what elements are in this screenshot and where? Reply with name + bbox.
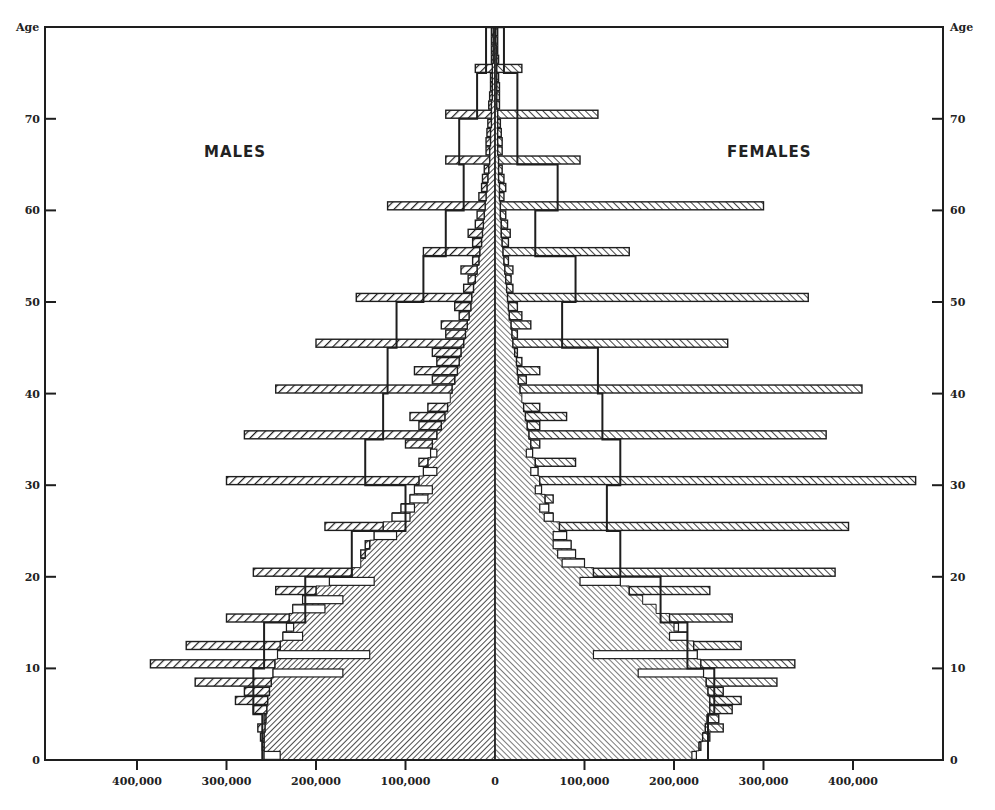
x-tick-label: 300,000: [202, 775, 252, 788]
age-bar-deficit: [535, 486, 541, 494]
age-bar-excess: [501, 229, 510, 237]
age-bar-deficit: [593, 651, 697, 659]
age-bar-excess: [475, 220, 483, 228]
y-tick-label: 70: [950, 113, 966, 126]
age-bar-deficit: [401, 504, 414, 512]
age-bar-excess: [428, 403, 448, 411]
age-bar-excess: [517, 367, 539, 375]
age-bar-excess: [535, 458, 575, 466]
y-tick-label: 10: [25, 662, 41, 675]
age-bar-deficit: [692, 751, 696, 759]
age-bar-excess: [524, 403, 540, 411]
age-bar-excess: [419, 458, 428, 466]
age-bar-excess: [361, 550, 365, 558]
age-bar-excess: [515, 348, 518, 356]
age-bar-excess: [531, 440, 540, 448]
age-bar-excess: [432, 376, 454, 384]
age-bar-excess: [496, 28, 498, 36]
y-tick-label: 20: [25, 571, 41, 584]
age-bar-excess: [500, 202, 763, 210]
males-label: MALES: [204, 143, 266, 161]
age-bar-deficit: [553, 532, 566, 540]
y-tick-label: 60: [950, 204, 966, 217]
age-bar-excess: [410, 413, 445, 421]
age-bar-deficit: [562, 559, 584, 567]
age-bar-excess: [505, 266, 513, 274]
age-bar-excess: [490, 92, 493, 100]
age-bar-deficit: [580, 577, 620, 585]
age-bar-deficit: [303, 596, 343, 604]
age-bar-deficit: [414, 486, 432, 494]
age-bar-excess: [365, 541, 369, 549]
age-bar-excess: [446, 330, 466, 338]
age-bar-excess: [502, 238, 508, 246]
population-pyramid-chart: 001010202030304040505060607070 400,00030…: [0, 0, 995, 810]
age-bar-excess: [500, 211, 505, 219]
age-bar-excess: [459, 312, 469, 320]
age-bar-deficit: [286, 623, 293, 631]
age-bar-excess: [482, 174, 487, 182]
age-bar-deficit: [273, 669, 343, 677]
x-tick-label: 400,000: [112, 775, 162, 788]
age-bar-excess: [504, 257, 508, 265]
x-tick-label: 100,000: [560, 775, 610, 788]
age-bar-deficit: [670, 632, 688, 640]
y-tick-label: 0: [32, 754, 40, 767]
age-bar-excess: [484, 165, 488, 173]
age-bar-excess: [699, 742, 701, 750]
age-bar-excess: [501, 220, 507, 228]
age-bar-excess: [235, 696, 267, 704]
age-bar-deficit: [423, 467, 436, 475]
age-bar-excess: [497, 101, 500, 109]
age-bar-excess: [325, 522, 383, 530]
age-bar-excess: [486, 147, 490, 155]
age-bar-excess: [253, 706, 266, 714]
age-bar-deficit: [278, 651, 370, 659]
age-bar-deficit: [526, 449, 532, 457]
y-tick-label: 60: [25, 204, 41, 217]
age-bar-excess: [437, 358, 459, 366]
age-bar-excess: [276, 587, 316, 595]
age-bar-excess: [706, 678, 777, 686]
age-bar-excess: [244, 687, 269, 695]
age-bar-deficit: [431, 449, 437, 457]
y-axis-label-right: Age: [949, 21, 973, 34]
age-bar-excess: [498, 129, 502, 137]
age-bar-excess: [593, 568, 835, 576]
age-bar-deficit: [553, 541, 571, 549]
age-bar-excess: [491, 55, 493, 63]
age-bar-excess: [150, 660, 274, 668]
x-tick-label: 100,000: [381, 775, 431, 788]
age-bar-excess: [432, 348, 461, 356]
age-bar-excess: [488, 119, 492, 127]
age-bar-deficit: [283, 632, 303, 640]
age-bar-excess: [491, 46, 493, 54]
age-bar-excess: [486, 138, 490, 146]
age-bar-deficit: [293, 605, 325, 613]
age-bar-deficit: [674, 623, 678, 631]
age-bar-excess: [414, 367, 457, 375]
age-bar-excess: [477, 211, 484, 219]
age-bar-deficit: [544, 513, 553, 521]
age-bar-excess: [491, 83, 493, 91]
age-bar-excess: [509, 312, 522, 320]
age-bar-excess: [518, 376, 526, 384]
age-bar-excess: [423, 248, 479, 256]
age-bar-excess: [473, 257, 479, 265]
age-bar-excess: [497, 46, 498, 54]
y-tick-label: 30: [25, 479, 41, 492]
y-tick-label: 50: [950, 296, 966, 309]
age-bar-excess: [491, 74, 493, 82]
y-tick-label: 70: [25, 113, 41, 126]
age-bar-deficit: [410, 495, 428, 503]
age-bar-excess: [670, 614, 733, 622]
y-tick-label: 10: [950, 662, 966, 675]
age-bar-excess: [487, 129, 491, 137]
age-bar-excess: [710, 706, 732, 714]
age-bar-excess: [186, 642, 280, 650]
age-bar-excess: [489, 101, 492, 109]
x-tick-label: 200,000: [649, 775, 699, 788]
age-bar-excess: [491, 28, 493, 36]
age-bar-excess: [468, 229, 482, 237]
age-bar-excess: [499, 193, 503, 201]
